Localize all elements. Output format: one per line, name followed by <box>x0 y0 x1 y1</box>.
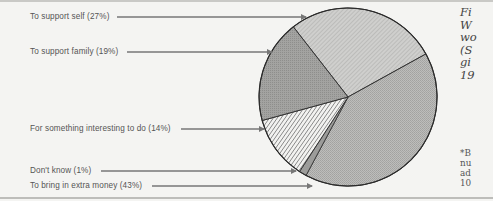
label-extra-money: To bring in extra money (43%) <box>30 181 142 190</box>
label-dont-know: Don't know (1%) <box>30 166 91 175</box>
bottom-rule <box>0 197 493 199</box>
figure-caption: Fi W wo (S gi 19 <box>460 6 477 82</box>
label-interesting: For something interesting to do (14%) <box>30 124 171 133</box>
footnote: *B nu ad 10 <box>460 148 471 188</box>
label-support-self: To support self (27%) <box>30 12 109 21</box>
label-support-family: To support family (19%) <box>30 47 118 56</box>
